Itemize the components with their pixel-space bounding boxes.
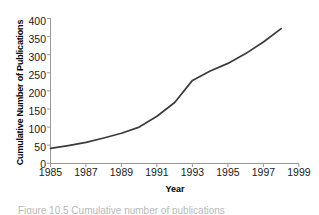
plot-area: [0, 0, 319, 215]
x-tick-1995: 1995: [208, 167, 248, 178]
x-tick-1987: 1987: [66, 167, 106, 178]
x-tick-1993: 1993: [172, 167, 212, 178]
x-tick-1997: 1997: [243, 167, 283, 178]
x-tick-1991: 1991: [137, 167, 177, 178]
y-axis-ticks: [47, 19, 51, 164]
x-tick-1985: 1985: [31, 167, 71, 178]
x-tick-1999: 1999: [279, 167, 319, 178]
publications-line-chart: Cumulative Number of Publications 400 35…: [0, 0, 319, 215]
x-axis-tick-labels: 1985 1987 1989 1991 1993 1995 1997 1999: [0, 167, 319, 181]
x-tick-1989: 1989: [101, 167, 141, 178]
x-axis-title: Year: [50, 184, 300, 194]
figure-caption-partial: Figure 10.5 Cumulative number of publica…: [18, 205, 303, 214]
series-line-cumulative-publications: [51, 29, 282, 149]
